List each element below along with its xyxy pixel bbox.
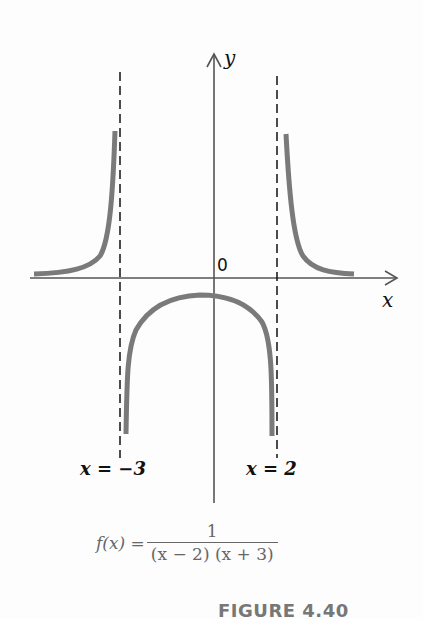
figure-caption: FIGURE 4.40: [218, 600, 349, 619]
curve-middle-branch: [126, 295, 272, 436]
curve-left-branch: [34, 131, 115, 274]
formula-denominator: (x − 2) (x + 3): [151, 543, 274, 564]
asymptote-left-label: x = −3: [80, 458, 146, 479]
formula-numerator: 1: [147, 521, 278, 543]
y-axis-label: y: [224, 46, 235, 70]
asymptote-right-label: x = 2: [246, 458, 297, 479]
formula-lhs: f(x) =: [96, 533, 145, 553]
x-axis-label: x: [382, 288, 393, 312]
origin-label: 0: [217, 255, 228, 275]
function-formula: f(x) = 1 (x − 2) (x + 3): [96, 521, 274, 564]
formula-fraction: 1 (x − 2) (x + 3): [151, 521, 274, 564]
curve-right-branch: [286, 134, 354, 274]
